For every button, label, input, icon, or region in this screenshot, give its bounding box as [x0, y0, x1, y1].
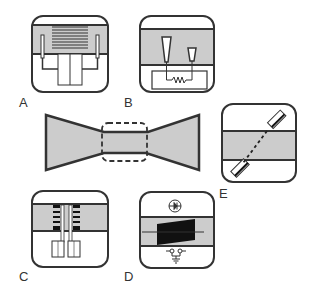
bow-tie-channel — [46, 115, 199, 170]
panel-e — [222, 104, 296, 182]
panel-label-c: C — [19, 270, 28, 283]
panel-c — [32, 191, 108, 267]
panel-label-b: B — [124, 96, 133, 109]
panel-d — [140, 192, 214, 268]
panel-label-e: E — [219, 187, 228, 200]
panel-label-a: A — [19, 96, 28, 109]
figure-canvas — [0, 0, 309, 294]
panel-b — [140, 16, 214, 92]
panel-label-d: D — [124, 270, 133, 283]
panel-a — [32, 16, 108, 92]
